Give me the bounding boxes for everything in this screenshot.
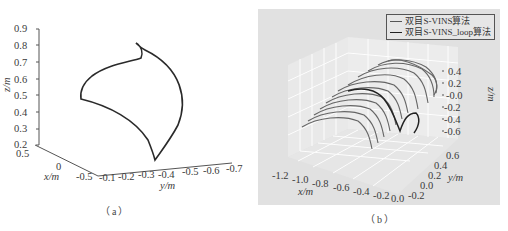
z-tick: -0.4 [444,115,461,126]
y-tick: 0.6 [446,151,459,162]
z-tick: -0.6 [444,127,461,138]
legend-item: 双目S-VINS算法 [390,16,491,27]
legend: 双目S-VINS算法 双目S-VINS_loop算法 [386,14,495,40]
legend-item: 双目S-VINS_loop算法 [390,27,491,38]
x-tick: 0.0 [391,194,404,205]
y-tick: -0.6 [203,166,220,177]
y-tick: -0.1 [99,173,116,184]
chart-panel-a: 0.9 0.8 0.7 0.6 0.5 0.4 0.3 0.2 z/m 0.5 … [0,0,250,231]
panel-a-plot [0,0,250,231]
z-tick: 0.7 [14,58,27,69]
z-tick: 0.9 [14,24,27,35]
x-tick: -1.2 [272,171,289,182]
z-tick: -0.2 [444,103,461,114]
z-tick: 0.8 [14,41,27,52]
caption-a: （a） [100,203,130,218]
y-tick: -0.4 [158,170,175,181]
x-tick: 0.5 [16,149,29,160]
y-tick: 0.2 [428,171,441,182]
z-tick: 0.4 [448,67,461,78]
y-tick: -0.2 [118,172,135,183]
z-tick: -0.0 [446,91,463,102]
x-tick: -0.2 [373,191,390,202]
y-tick: 0.0 [420,181,433,192]
legend-label: 双目S-VINS_loop算法 [405,27,491,38]
z-tick: 0.4 [14,108,27,119]
x-tick: -0.8 [312,179,329,190]
z-tick: 0.3 [14,124,27,135]
legend-label: 双目S-VINS算法 [405,16,470,27]
y-axis-label: y/m [448,173,463,184]
chart-panel-b: 双目S-VINS算法 双目S-VINS_loop算法 0.4 0.2 -0.0 … [258,9,500,205]
x-axis-label: x/m [298,187,313,198]
y-tick: -0.2 [408,191,425,202]
legend-swatch [390,32,402,33]
caption-b: （b） [365,211,396,226]
z-tick: 0.2 [448,79,461,90]
z-tick: 0.5 [14,91,27,102]
y-tick: -0.7 [226,164,243,175]
y-tick: -0.3 [138,170,155,181]
x-axis-label: x/m [44,172,59,183]
y-axis-label: y/m [160,181,175,192]
legend-swatch [390,21,402,22]
x-tick: -0.6 [333,183,350,194]
y-tick: 0.4 [434,161,447,172]
z-axis-label: z/m [486,87,497,102]
x-tick: -0.4 [353,187,370,198]
z-tick: 0.6 [14,75,27,86]
x-tick: -0.5 [76,172,93,183]
x-tick: -1.0 [292,175,309,186]
z-axis-label: z/m [2,77,13,92]
y-tick: -0.5 [182,167,199,178]
